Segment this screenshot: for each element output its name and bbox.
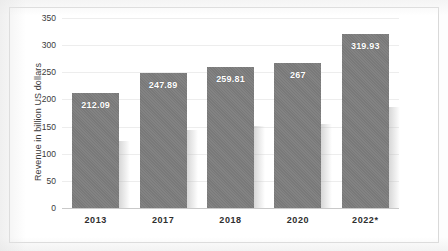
bar-value-label: 267 xyxy=(274,70,321,80)
bar[interactable]: 2672020 xyxy=(274,63,321,208)
x-tick-label: 2022* xyxy=(342,215,389,225)
y-tick-label: 250 xyxy=(42,67,56,77)
x-tick-label: 2013 xyxy=(72,215,119,225)
bar-value-label: 247.89 xyxy=(140,80,187,90)
plot-area: 050100150200250300350 212.092013247.8920… xyxy=(62,18,399,208)
y-tick-label: 0 xyxy=(51,203,56,213)
x-axis-line: 0 xyxy=(62,208,399,209)
y-tick-label: 200 xyxy=(42,94,56,104)
bar[interactable]: 247.892017 xyxy=(140,73,187,208)
bar[interactable]: 212.092013 xyxy=(72,93,119,208)
bar[interactable]: 259.812018 xyxy=(207,67,254,208)
bar[interactable]: 319.932022* xyxy=(342,34,389,208)
bar-value-label: 259.81 xyxy=(207,74,254,84)
y-tick-label: 350 xyxy=(42,13,56,23)
bar-value-label: 319.93 xyxy=(342,41,389,51)
bars-group: 212.092013247.892017259.8120182672020319… xyxy=(62,18,399,208)
y-tick-label: 50 xyxy=(47,176,56,186)
x-tick-label: 2020 xyxy=(274,215,321,225)
y-tick-label: 100 xyxy=(42,149,56,159)
y-tick-label: 300 xyxy=(42,40,56,50)
y-tick-label: 150 xyxy=(42,122,56,132)
x-tick-label: 2017 xyxy=(140,215,187,225)
x-tick-label: 2018 xyxy=(207,215,254,225)
bar-value-label: 212.09 xyxy=(72,100,119,110)
bar-chart-figure: Revenue in billion US dollars 0501001502… xyxy=(0,0,448,251)
